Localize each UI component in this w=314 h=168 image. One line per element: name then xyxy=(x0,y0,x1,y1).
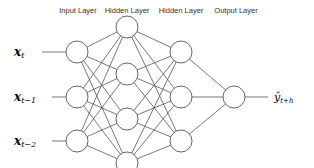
hidden-1-node xyxy=(116,152,138,168)
input-node xyxy=(66,130,88,152)
hidden-1-node xyxy=(116,108,138,130)
network-graph: xt xt−1 xt−2 ŷt+h xyxy=(0,0,314,168)
hidden-1-node xyxy=(116,63,138,85)
neural-network-diagram: Input Layer Hidden Layer Hidden Layer Ou… xyxy=(0,0,314,168)
output-label-yhat: ŷt+h xyxy=(273,91,293,105)
input-node xyxy=(66,86,88,108)
input-label-xt-1: xt−1 xyxy=(13,90,36,105)
hidden-1-node xyxy=(116,16,138,38)
neurons xyxy=(66,16,245,168)
input-label-xt: xt xyxy=(13,45,25,60)
input-node xyxy=(66,41,88,63)
output-node xyxy=(223,86,245,108)
hidden-2-node xyxy=(170,41,192,63)
hidden-2-node xyxy=(170,86,192,108)
input-label-xt-2: xt−2 xyxy=(13,134,36,149)
hidden-2-node xyxy=(170,130,192,152)
